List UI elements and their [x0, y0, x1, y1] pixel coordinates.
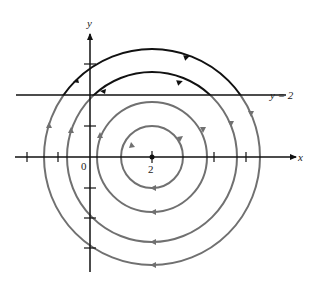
- arrow-icon: [228, 121, 234, 127]
- center-label: 2: [148, 163, 154, 175]
- arrow-icon: [150, 262, 156, 268]
- phase-portrait-diagram: y x 0 2 y = 2: [0, 0, 318, 283]
- arrow-icon: [150, 185, 156, 191]
- arrow-icon: [248, 111, 254, 117]
- arrow-icon: [150, 239, 156, 245]
- arrow-icon: [46, 122, 52, 128]
- y-axis-label: y: [86, 17, 92, 29]
- arrow-icon: [176, 78, 184, 86]
- x-axis-label: x: [297, 151, 303, 163]
- line-label: y = 2: [269, 89, 294, 101]
- arrow-icon: [129, 142, 135, 148]
- arrow-icon: [150, 209, 156, 215]
- origin-label: 0: [81, 160, 87, 172]
